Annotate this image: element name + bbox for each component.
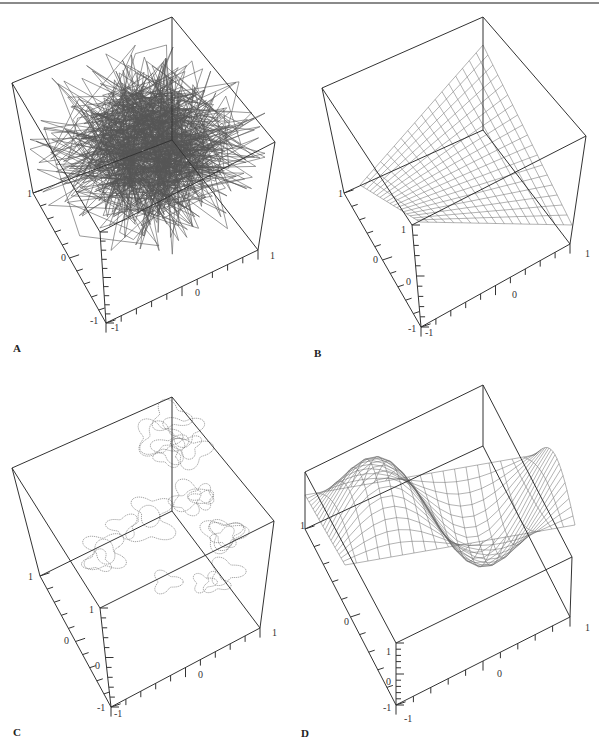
tick-label: -1 xyxy=(97,702,105,713)
tick-label: 0 xyxy=(512,289,517,300)
panel-c-plot xyxy=(0,380,300,749)
tick-label: 0 xyxy=(61,252,66,263)
tick-label: 0 xyxy=(406,276,411,287)
panel-c: 1 0 1 0 -1 -1 0 1 C xyxy=(0,380,300,749)
panel-d: 1 0 1 0 -1 -1 0 1 D xyxy=(300,380,599,749)
tick-label: -1 xyxy=(114,708,122,719)
tick-label: 1 xyxy=(27,188,32,199)
tick-label: 1 xyxy=(401,224,406,235)
tick-label: 0 xyxy=(344,616,349,627)
tick-label: -1 xyxy=(111,322,119,333)
tick-label: 1 xyxy=(89,604,94,615)
tick-label: 0 xyxy=(198,669,203,680)
panel-b-plot xyxy=(300,0,599,375)
tick-label: 1 xyxy=(585,248,590,259)
tick-label: -1 xyxy=(408,323,416,334)
tick-label: 1 xyxy=(300,520,305,531)
tick-label: 1 xyxy=(272,627,277,638)
tick-label: 1 xyxy=(338,188,343,199)
tick-label: 0 xyxy=(95,660,100,671)
tick-label: -1 xyxy=(90,315,98,326)
bounding-box xyxy=(322,17,586,327)
tick-label: 0 xyxy=(64,635,69,646)
panel-label-a: A xyxy=(13,342,21,354)
tick-label: 0 xyxy=(497,668,502,679)
tick-label: 1 xyxy=(386,646,391,657)
tick-label: 0 xyxy=(373,254,378,265)
tick-label: 0 xyxy=(195,287,200,298)
panel-a-plot xyxy=(0,0,300,375)
tick-label: 1 xyxy=(585,622,590,633)
panel-a: 1 0 -1 -1 0 1 A xyxy=(0,0,300,375)
tick-label: 1 xyxy=(28,571,33,582)
tick-label: -1 xyxy=(425,327,433,338)
tick-label: 1 xyxy=(270,250,275,261)
panel-d-plot xyxy=(300,380,599,749)
tick-label: -1 xyxy=(404,713,412,724)
panel-label-c: C xyxy=(13,726,21,738)
tick-label: 0 xyxy=(386,676,391,687)
bounding-box xyxy=(12,397,274,707)
bounding-box xyxy=(305,385,572,705)
panel-b: 1 0 1 0 -1 -1 0 1 B xyxy=(300,0,599,375)
panel-label-b: B xyxy=(314,347,321,359)
panel-label-d: D xyxy=(301,727,309,739)
tick-label: -1 xyxy=(383,702,391,713)
